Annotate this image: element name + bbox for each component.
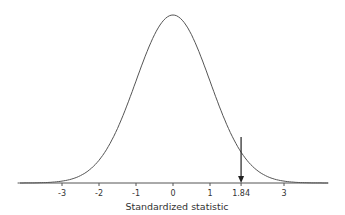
x-tick-label: 1.84 <box>232 189 250 198</box>
x-tick-label: 0 <box>170 189 175 198</box>
x-tick-label: -3 <box>58 189 66 198</box>
density-curve <box>18 15 329 183</box>
x-tick-label: 1 <box>207 189 212 198</box>
normal-distribution-chart: -3-2-1011.843 Standardized statistic <box>0 0 345 215</box>
x-axis-label: Standardized statistic <box>125 201 228 212</box>
x-tick-label: -2 <box>95 189 103 198</box>
x-axis-ticks: -3-2-1011.843 <box>58 183 287 198</box>
x-tick-label: -1 <box>132 189 140 198</box>
x-tick-label: 3 <box>281 189 286 198</box>
observed-statistic-arrow <box>238 137 244 183</box>
